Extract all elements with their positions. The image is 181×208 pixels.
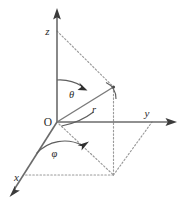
x-axis-arrowhead (10, 186, 20, 197)
dotted-plane-to-y-axis (114, 122, 153, 175)
theta-arc-arrowhead (78, 83, 88, 91)
y-axis-label: y (144, 107, 150, 119)
origin-label: O (44, 116, 52, 128)
theta-label: θ (69, 89, 74, 100)
figure-caption (0, 203, 181, 208)
x-axis-label: x (13, 171, 19, 183)
r-underline-arc (62, 112, 94, 126)
r-arc-group (62, 112, 94, 126)
axes-group (10, 8, 178, 197)
coordinate-system-svg: z y x O θ φ r (0, 0, 181, 208)
theta-arc (57, 80, 83, 87)
dotted-z-to-point (57, 31, 114, 87)
phi-label: φ (52, 148, 58, 159)
phi-arc-arrowhead (78, 142, 89, 151)
radius-label: r (92, 104, 97, 115)
z-axis-label: z (44, 25, 50, 37)
radius-vector-r (57, 87, 114, 122)
dotted-origin-to-plane (59, 124, 114, 175)
spherical-coordinates-figure: z y x O θ φ r (0, 0, 181, 208)
